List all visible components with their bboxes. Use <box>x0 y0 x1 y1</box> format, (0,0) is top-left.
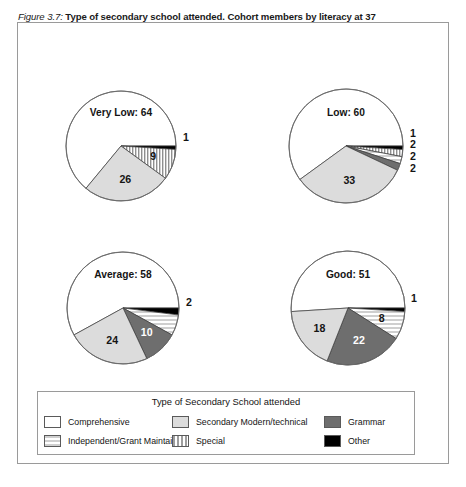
swatch-secondary-modern-icon <box>172 416 189 428</box>
pie-slice-value-grammar: 10 <box>141 326 153 338</box>
legend-label-special: Special <box>196 436 225 446</box>
legend-item-secondary-modern[interactable]: Secondary Modern/technical <box>172 412 324 431</box>
legend-item-other[interactable]: Other <box>324 431 422 450</box>
legend-item-independent[interactable]: Independent/Grant Maintained <box>44 431 172 450</box>
legend-item-special[interactable]: Special <box>172 431 324 450</box>
legend-grid: Comprehensive Secondary Modern/technical… <box>38 412 414 450</box>
legend-label-grammar: Grammar <box>348 417 385 427</box>
legend-item-comprehensive[interactable]: Comprehensive <box>44 412 172 431</box>
pie-chart-very-low: Very Low: 649261 <box>66 91 189 201</box>
pie-center-label: Very Low: 64 <box>90 107 153 118</box>
legend-label-other: Other <box>348 436 370 446</box>
swatch-grammar-icon <box>324 416 341 428</box>
pie-slice-value-grammar: 22 <box>353 334 365 346</box>
pie-callout-value-independent: 2 <box>410 150 416 162</box>
pie-slice-value-secondary-modern: 18 <box>314 322 326 334</box>
pie-slice-value-independent: 8 <box>379 312 385 324</box>
pie-chart-good: Good: 51822181 <box>291 251 417 365</box>
figure-number: Figure 3.7: <box>18 11 63 22</box>
legend-item-grammar[interactable]: Grammar <box>324 412 422 431</box>
legend-label-independent: Independent/Grant Maintained <box>68 436 187 446</box>
pie-slice-value-secondary-modern: 24 <box>106 334 118 346</box>
pie-chart-average: Average: 5810242 <box>67 252 192 364</box>
pie-callout-value-other: 1 <box>411 292 417 304</box>
pie-callout-value-other: 2 <box>186 296 192 308</box>
pie-slice-value-special: 9 <box>150 150 156 162</box>
pie-slice-comprehensive <box>291 251 405 312</box>
swatch-comprehensive-icon <box>44 416 61 428</box>
swatch-other-icon <box>324 435 341 447</box>
pie-center-label: Good: 51 <box>326 269 370 280</box>
pie-callout-value-grammar: 2 <box>410 162 416 174</box>
legend-label-comprehensive: Comprehensive <box>68 417 130 427</box>
pie-slice-value-secondary-modern: 33 <box>343 174 355 186</box>
pie-callout-value-special: 2 <box>410 138 416 150</box>
figure-caption: Figure 3.7: Type of secondary school att… <box>18 11 376 22</box>
pie-slice-value-secondary-modern: 26 <box>119 173 131 185</box>
pie-callout-value-other: 1 <box>183 131 189 143</box>
pie-chart-low: Low: 60331222 <box>289 89 416 203</box>
swatch-independent-icon <box>44 435 61 447</box>
legend-label-secondary-modern: Secondary Modern/technical <box>196 417 308 427</box>
figure-caption-text: Type of secondary school attended. Cohor… <box>65 11 375 22</box>
pie-center-label: Low: 60 <box>327 107 365 118</box>
legend: Type of Secondary School attended Compre… <box>37 391 415 455</box>
swatch-special-icon <box>172 435 189 447</box>
legend-title: Type of Secondary School attended <box>38 396 414 407</box>
pie-center-label: Average: 58 <box>94 269 152 280</box>
